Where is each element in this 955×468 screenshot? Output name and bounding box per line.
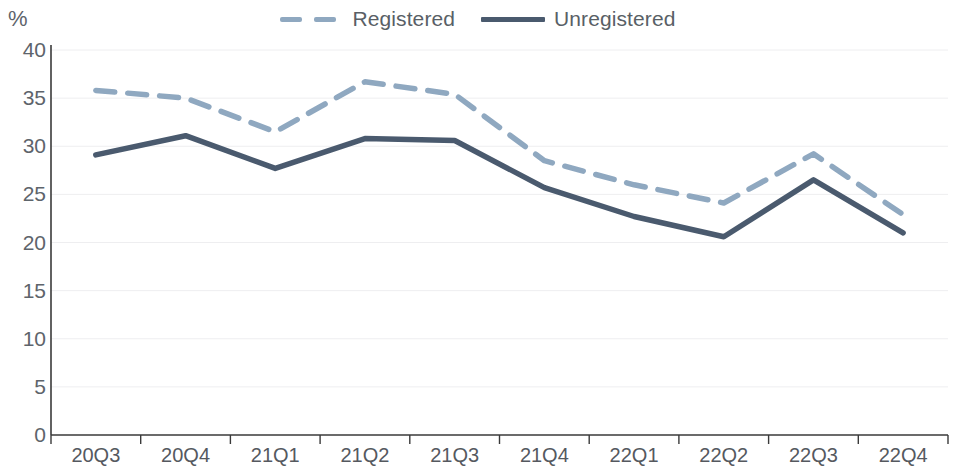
x-tick-20Q3: 20Q3	[71, 444, 120, 467]
x-tick-22Q4: 22Q4	[879, 444, 928, 467]
x-tick-22Q2: 22Q2	[699, 444, 748, 467]
plot-area	[0, 0, 955, 468]
series-group	[96, 82, 903, 237]
x-tick-21Q3: 21Q3	[430, 444, 479, 467]
x-tick-21Q4: 21Q4	[520, 444, 569, 467]
x-tick-21Q2: 21Q2	[340, 444, 389, 467]
x-tick-20Q4: 20Q4	[161, 444, 210, 467]
line-chart: Registered Unregistered % 05101520253035…	[0, 0, 955, 468]
gridlines	[51, 50, 948, 387]
x-tick-22Q3: 22Q3	[789, 444, 838, 467]
series-line-unregistered	[96, 136, 903, 237]
x-axis-tick-labels: 20Q320Q421Q121Q221Q321Q422Q122Q222Q322Q4	[0, 444, 955, 468]
x-tick-22Q1: 22Q1	[610, 444, 659, 467]
axis-lines	[51, 45, 948, 444]
x-tick-21Q1: 21Q1	[251, 444, 300, 467]
